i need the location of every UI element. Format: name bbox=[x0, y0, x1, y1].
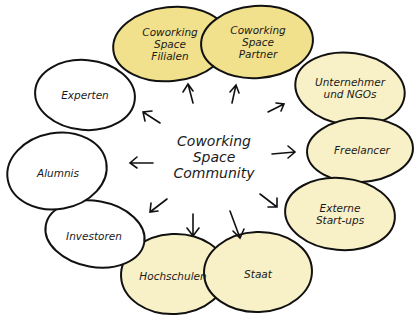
node-line: Freelancer bbox=[334, 144, 390, 156]
node-line: und NGOs bbox=[315, 88, 385, 100]
node-filialen: Coworking Space Filialen bbox=[142, 26, 197, 62]
node-partner: Coworking Space Partner bbox=[230, 24, 285, 60]
node-line: Staat bbox=[244, 268, 272, 280]
node-unternehmer: Unternehmer und NGOs bbox=[315, 76, 385, 100]
node-line: Start-ups bbox=[316, 214, 364, 226]
node-line: Coworking bbox=[230, 24, 285, 36]
node-line: Space bbox=[142, 38, 197, 50]
node-line: Alumnis bbox=[37, 167, 79, 179]
node-line: Externe bbox=[316, 202, 364, 214]
node-staat: Staat bbox=[244, 268, 272, 280]
node-line: Experten bbox=[61, 89, 109, 101]
node-freelancer: Freelancer bbox=[334, 144, 390, 156]
node-experten: Experten bbox=[61, 89, 109, 101]
center-label: Coworking Space Community bbox=[173, 133, 254, 181]
node-line: Unternehmer bbox=[315, 76, 385, 88]
node-line: Space bbox=[230, 36, 285, 48]
node-line: Coworking bbox=[142, 26, 197, 38]
center-line-3: Community bbox=[173, 165, 254, 181]
node-startups: Externe Start-ups bbox=[316, 202, 364, 226]
node-investoren: Investoren bbox=[66, 230, 122, 242]
center-line-2: Space bbox=[173, 149, 254, 165]
node-line: Filialen bbox=[142, 50, 197, 62]
node-line: Investoren bbox=[66, 230, 122, 242]
node-alumnis: Alumnis bbox=[37, 167, 79, 179]
node-hochschulen: Hochschulen bbox=[139, 270, 206, 282]
center-line-1: Coworking bbox=[173, 133, 254, 149]
node-line: Partner bbox=[230, 48, 285, 60]
node-line: Hochschulen bbox=[139, 270, 206, 282]
